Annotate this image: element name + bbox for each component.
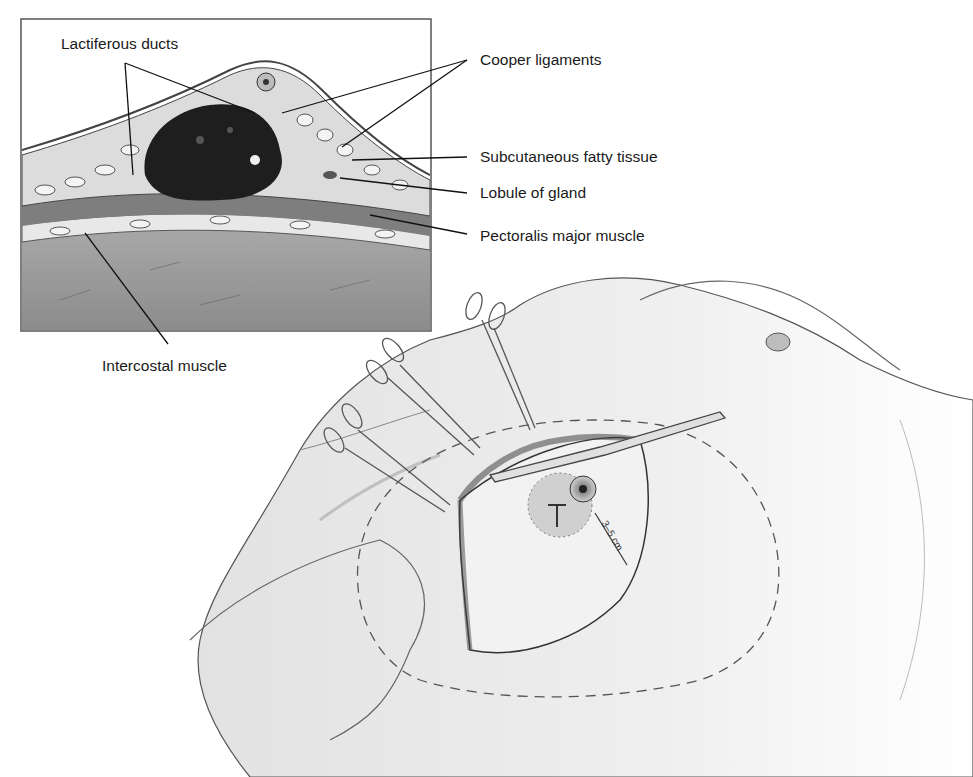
illustration-canvas <box>0 0 973 777</box>
label-lobule-of-gland: Lobule of gland <box>480 185 586 201</box>
torso-drawing <box>190 278 973 777</box>
inset-cross-section <box>21 19 431 331</box>
label-cooper-ligaments: Cooper ligaments <box>480 52 601 68</box>
contralateral-nipple-icon <box>766 333 790 351</box>
label-lactiferous-ducts: Lactiferous ducts <box>61 36 178 52</box>
label-pectoralis-major-muscle: Pectoralis major muscle <box>480 228 645 244</box>
label-intercostal-muscle: Intercostal muscle <box>102 358 227 374</box>
label-subcutaneous-fatty-tissue: Subcutaneous fatty tissue <box>480 149 658 165</box>
